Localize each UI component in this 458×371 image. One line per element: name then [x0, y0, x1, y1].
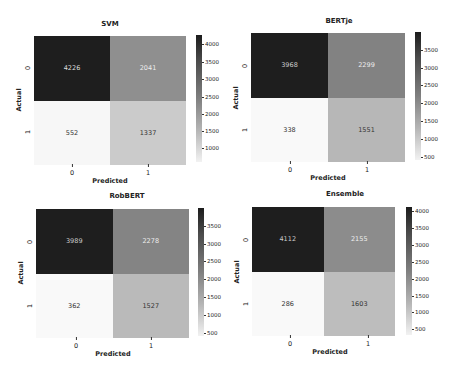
y-tick-1: 1	[242, 302, 250, 306]
y-tick-0: 0	[241, 64, 249, 68]
colorbar-tick: 2500	[421, 82, 438, 88]
x-tick-1: 1	[149, 342, 153, 350]
cell-fn: 552	[34, 101, 110, 166]
y-axis-label: Actual	[232, 86, 240, 109]
cell-tn: 4112	[252, 207, 324, 272]
colorbar-tick: 2000	[421, 100, 438, 106]
colorbar-tick: 2500	[204, 258, 221, 264]
heatmap: 4226 2041 552 1337	[34, 36, 186, 165]
colorbar-tick: 1000	[204, 312, 221, 318]
colorbar-tick: 1500	[202, 128, 219, 134]
y-tick-1: 1	[241, 128, 249, 132]
colorbar-tick: 3000	[202, 76, 219, 82]
colorbar-tick: 1000	[412, 309, 429, 315]
cell-fn: 286	[252, 272, 324, 337]
cell-tn: 3968	[251, 33, 328, 98]
colorbar-tick: 3500	[412, 225, 429, 231]
x-tick-0: 0	[288, 166, 292, 174]
colorbar-tick: 500	[204, 330, 218, 336]
cell-fp: 2299	[328, 33, 405, 98]
colorbar-tick: 4000	[412, 208, 429, 214]
y-tick-1: 1	[24, 130, 32, 134]
cell-tp: 1337	[110, 101, 186, 166]
colorbar-tick: 2000	[412, 276, 429, 282]
chart-title: Ensemble	[326, 190, 364, 198]
cell-fp: 2278	[113, 209, 190, 274]
colorbar-tick: 3500	[202, 59, 219, 65]
x-tick-1: 1	[366, 340, 370, 348]
heatmap: 3989 2278 362 1527	[36, 209, 189, 338]
colorbar-tick: 2000	[204, 276, 221, 282]
colorbar-tick: 2500	[412, 259, 429, 265]
y-tick-0: 0	[24, 66, 32, 70]
x-tick-0: 0	[74, 342, 78, 350]
colorbar-tick: 2000	[202, 111, 219, 117]
colorbar-tick: 3500	[204, 223, 221, 229]
colorbar-tick: 3500	[421, 47, 438, 53]
y-axis-label: Actual	[15, 88, 23, 111]
chart-title: BERTje	[325, 17, 352, 25]
x-tick-0: 0	[288, 340, 292, 348]
y-tick-0: 0	[242, 238, 250, 242]
y-axis-label: Actual	[233, 260, 241, 283]
colorbar-tick: 3000	[204, 241, 221, 247]
colorbar-tick: 500	[412, 326, 426, 332]
x-axis-label: Predicted	[92, 177, 127, 185]
x-axis-label: Predicted	[95, 350, 130, 358]
cell-fn: 362	[36, 274, 113, 339]
y-tick-1: 1	[26, 304, 34, 308]
x-tick-1: 1	[146, 169, 150, 177]
heatmap: 3968 2299 338 1551	[251, 33, 405, 162]
cell-tn: 3989	[36, 209, 113, 274]
cell-fp: 2155	[324, 207, 396, 272]
x-tick-1: 1	[365, 166, 369, 174]
heatmap: 4112 2155 286 1603	[252, 207, 395, 336]
cell-fp: 2041	[110, 36, 186, 101]
x-tick-0: 0	[70, 169, 74, 177]
colorbar-tick: 1500	[412, 293, 429, 299]
colorbar-tick: 1000	[421, 136, 438, 142]
colorbar-tick: 1000	[202, 145, 219, 151]
chart-title: SVM	[101, 20, 118, 28]
colorbar-tick: 1500	[421, 118, 438, 124]
cell-tp: 1603	[324, 272, 396, 337]
cell-tp: 1551	[328, 98, 405, 163]
chart-title: RobBERT	[109, 192, 144, 200]
colorbar-tick: 3000	[421, 65, 438, 71]
colorbar-tick: 500	[421, 154, 435, 160]
colorbar-tick: 2500	[202, 94, 219, 100]
y-tick-0: 0	[26, 240, 34, 244]
y-axis-label: Actual	[17, 261, 25, 284]
x-axis-label: Predicted	[312, 348, 347, 356]
x-axis-label: Predicted	[310, 174, 345, 182]
colorbar-tick: 1500	[204, 294, 221, 300]
cell-tn: 4226	[34, 36, 110, 101]
cell-tp: 1527	[113, 274, 190, 339]
cell-fn: 338	[251, 98, 328, 163]
colorbar-tick: 3000	[412, 242, 429, 248]
colorbar-tick: 4000	[202, 41, 219, 47]
